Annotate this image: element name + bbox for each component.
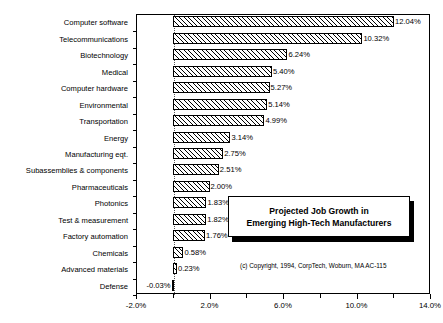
value-tick-label: 2.0%	[201, 301, 219, 310]
bar	[173, 230, 205, 241]
bar	[173, 247, 184, 258]
category-label: Energy	[104, 133, 128, 142]
category-label: Environmental	[79, 100, 128, 109]
value-tick-minor	[246, 294, 247, 298]
bar-value-label: 5.27%	[271, 81, 293, 94]
bar	[173, 82, 270, 93]
category-label: Computer software	[64, 18, 128, 27]
category-label: Manufacturing eqt.	[65, 150, 128, 159]
value-tick-minor	[393, 294, 394, 298]
bar-value-label: 6.24%	[288, 48, 310, 61]
category-label: Test & measurement	[58, 215, 128, 224]
bar-value-label: 5.14%	[268, 98, 290, 111]
bar-row: 3.14%	[136, 130, 430, 146]
value-tick-major	[357, 294, 358, 299]
chart-title-line-2: Emerging High-Tech Manufacturers	[247, 217, 392, 229]
category-label: Chemicals	[93, 248, 128, 257]
bar-row: 5.14%	[136, 97, 430, 113]
bar	[173, 99, 267, 110]
bar	[173, 197, 207, 208]
bar	[173, 132, 231, 143]
bar-row: 5.27%	[136, 80, 430, 96]
bar-row: 6.24%	[136, 47, 430, 63]
bar-row: -0.03%	[136, 278, 430, 294]
value-tick-label: 6.0%	[274, 301, 292, 310]
bar	[173, 214, 206, 225]
bar	[173, 148, 224, 159]
bar	[173, 115, 265, 126]
value-tick-major	[210, 294, 211, 299]
category-label: Defense	[100, 281, 128, 290]
chart-title-box: Projected Job Growth in Emerging High-Te…	[228, 196, 410, 237]
copyright-note: (c) Copyright, 1994, CorpTech, Woburn, M…	[240, 262, 386, 269]
category-axis-labels: Computer softwareTelecommunicationsBiote…	[0, 14, 132, 294]
bar-value-label: 1.76%	[206, 229, 228, 242]
category-label: Transportation	[79, 117, 128, 126]
category-label: Computer hardware	[61, 84, 128, 93]
bar-row: 12.04%	[136, 14, 430, 30]
category-label: Subassemblies & components	[26, 166, 128, 175]
bar-value-label: 5.40%	[273, 65, 295, 78]
bar-value-label: 1.83%	[207, 196, 229, 209]
category-label: Photonics	[95, 199, 128, 208]
bars-layer: 12.04%10.32%6.24%5.40%5.27%5.14%4.99%3.1…	[136, 14, 430, 294]
bar-value-label: 12.04%	[395, 15, 421, 28]
bar-value-label: 0.23%	[178, 262, 200, 275]
bar-row: 4.99%	[136, 113, 430, 129]
bar-value-label: 4.99%	[265, 114, 287, 127]
bar-value-label: 10.32%	[363, 32, 389, 45]
bar-row: 2.75%	[136, 146, 430, 162]
bar-value-label: 3.14%	[231, 131, 253, 144]
value-tick-label: 10.0%	[345, 301, 367, 310]
bar	[172, 280, 174, 291]
bar-value-label: 1.82%	[207, 213, 229, 226]
value-tick-major	[430, 294, 431, 299]
bar-row: 2.00%	[136, 179, 430, 195]
bar-value-label: 2.75%	[224, 147, 246, 160]
bar	[173, 263, 177, 274]
value-tick-label: -2.0%	[126, 301, 146, 310]
category-label: Factory automation	[63, 232, 128, 241]
bar-value-label: 2.51%	[220, 163, 242, 176]
category-label: Biotechnology	[80, 51, 128, 60]
bar	[173, 66, 272, 77]
value-tick-minor	[173, 294, 174, 298]
bar-value-label: 0.58%	[184, 246, 206, 259]
bar	[173, 49, 288, 60]
value-tick-major	[283, 294, 284, 299]
value-axis: -2.0%2.0%6.0%10.0%14.0%	[136, 294, 430, 323]
bar	[173, 181, 210, 192]
value-tick-minor	[320, 294, 321, 298]
chart-title-line-1: Projected Job Growth in	[269, 205, 368, 217]
category-label: Advanced materials	[61, 265, 128, 274]
bar-value-label: -0.03%	[147, 279, 171, 292]
bar-row: 10.32%	[136, 31, 430, 47]
bar	[173, 164, 219, 175]
bar-row: 5.40%	[136, 64, 430, 80]
bar-value-label: 2.00%	[211, 180, 233, 193]
bar	[173, 33, 363, 44]
category-label: Pharmaceuticals	[72, 182, 128, 191]
category-label: Telecommunications	[59, 34, 128, 43]
value-tick-label: 14.0%	[419, 301, 441, 310]
value-tick-major	[136, 294, 137, 299]
category-label: Medical	[102, 67, 128, 76]
bar	[173, 16, 394, 27]
bar-chart: Computer softwareTelecommunicationsBiote…	[0, 0, 443, 323]
bar-row: 2.51%	[136, 162, 430, 178]
bar-row: 0.58%	[136, 245, 430, 261]
